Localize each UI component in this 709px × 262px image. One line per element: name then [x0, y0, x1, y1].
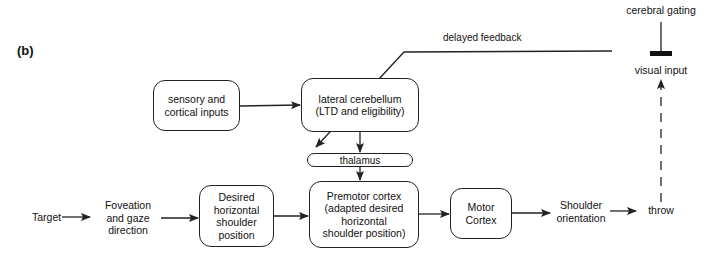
node-thalamus: thalamus [307, 153, 413, 167]
node-premotor-cortex: Premotor cortex (adapted desired horizon… [309, 181, 419, 248]
premotor-line-2: (adapted desired [323, 202, 406, 215]
node-desired-position: Desired horizontal shoulder position [199, 185, 274, 247]
node-target: Target [32, 211, 61, 224]
node-foveation: Foveation and gaze direction [96, 199, 160, 237]
node-shoulder-orientation: Shoulder orientation [551, 199, 611, 224]
sensory-line-2: cortical inputs [164, 106, 228, 119]
node-visual-input: visual input [625, 64, 697, 77]
premotor-line-1: Premotor cortex [323, 190, 406, 203]
panel-label: (b) [17, 45, 34, 58]
desired-line-2: horizontal [214, 204, 260, 217]
desired-line-4: position [214, 229, 260, 242]
shoulder-line-1: Shoulder [551, 199, 611, 212]
motor-line-2: Cortex [466, 214, 497, 227]
node-throw: throw [641, 204, 681, 217]
desired-line-3: shoulder [214, 216, 260, 229]
arrow-sensory-cerebellum [240, 105, 300, 106]
node-motor-cortex: Motor Cortex [450, 188, 512, 239]
foveation-line-1: Foveation [96, 199, 160, 212]
edge-label-delayed-feedback: delayed feedback [443, 32, 521, 45]
node-lateral-cerebellum: lateral cerebellum (LTD and eligibility) [301, 78, 419, 132]
premotor-line-3: horizontal [323, 215, 406, 228]
cerebellum-line-2: (LTD and eligibility) [315, 105, 404, 118]
premotor-line-4: shoulder position) [323, 227, 406, 240]
shoulder-line-2: orientation [551, 212, 611, 225]
foveation-line-2: and gaze [96, 212, 160, 225]
node-cerebral-gating: cerebral gating [619, 4, 703, 17]
gating-bar [650, 51, 672, 56]
foveation-line-3: direction [96, 224, 160, 237]
desired-line-1: Desired [214, 191, 260, 204]
motor-line-1: Motor [466, 201, 497, 214]
node-sensory-cortical-inputs: sensory and cortical inputs [153, 80, 240, 131]
cerebellum-line-1: lateral cerebellum [315, 93, 404, 106]
sensory-line-1: sensory and [164, 93, 228, 106]
